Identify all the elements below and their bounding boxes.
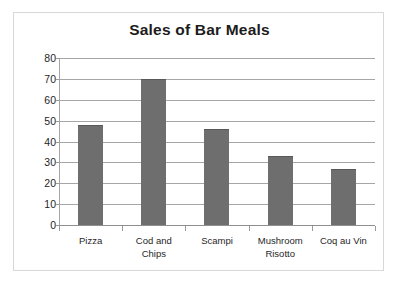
category-tick bbox=[122, 226, 123, 231]
bar-slot bbox=[59, 58, 122, 225]
x-axis-category-label-line: Pizza bbox=[59, 235, 122, 248]
plot-area bbox=[59, 58, 375, 225]
x-axis-category-label-line: Cod and bbox=[122, 235, 185, 248]
bar[interactable] bbox=[331, 169, 356, 225]
bar-slot bbox=[122, 58, 185, 225]
y-axis-tick-label: 80 bbox=[22, 53, 56, 64]
y-axis-tick-labels: 80706050403020100 bbox=[18, 58, 56, 225]
category-tick bbox=[185, 226, 186, 231]
y-axis-tick-label: 10 bbox=[22, 199, 56, 210]
category-tick bbox=[59, 226, 60, 231]
x-axis-category-label: MushroomRisotto bbox=[249, 235, 312, 260]
y-axis-tick-label: 50 bbox=[22, 115, 56, 126]
bar[interactable] bbox=[268, 156, 293, 225]
y-axis-tick-label: 70 bbox=[22, 74, 56, 85]
x-axis-category-label-line: Scampi bbox=[185, 235, 248, 248]
y-axis-tick-label: 40 bbox=[22, 136, 56, 147]
x-axis-category-label-line: Mushroom bbox=[249, 235, 312, 248]
x-axis-category-label: Cod andChips bbox=[122, 235, 185, 260]
y-axis-tick-label: 60 bbox=[22, 95, 56, 106]
x-axis-category-label-line: Risotto bbox=[249, 248, 312, 261]
x-axis-category-label: Pizza bbox=[59, 235, 122, 248]
bar-slot bbox=[312, 58, 375, 225]
bar-slot bbox=[185, 58, 248, 225]
chart-frame: Sales of Bar Meals 80706050403020100 Piz… bbox=[13, 12, 384, 271]
x-axis-category-label-line: Coq au Vin bbox=[312, 235, 375, 248]
y-axis-tick-label: 30 bbox=[22, 157, 56, 168]
x-axis-category-label: Coq au Vin bbox=[312, 235, 375, 248]
y-axis-tick-label: 0 bbox=[22, 220, 56, 231]
x-axis-category-labels: PizzaCod andChipsScampiMushroomRisottoCo… bbox=[59, 235, 375, 269]
category-tick bbox=[249, 226, 250, 231]
category-tick bbox=[312, 226, 313, 231]
category-tick bbox=[375, 226, 376, 231]
bar[interactable] bbox=[204, 129, 229, 225]
x-axis-category-label: Scampi bbox=[185, 235, 248, 248]
bar[interactable] bbox=[141, 79, 166, 225]
chart-title: Sales of Bar Meals bbox=[14, 21, 385, 39]
category-ticks bbox=[59, 226, 375, 232]
y-axis-tick-label: 20 bbox=[22, 178, 56, 189]
bar-slot bbox=[249, 58, 312, 225]
x-axis-category-label-line: Chips bbox=[122, 248, 185, 261]
bar[interactable] bbox=[78, 125, 103, 225]
